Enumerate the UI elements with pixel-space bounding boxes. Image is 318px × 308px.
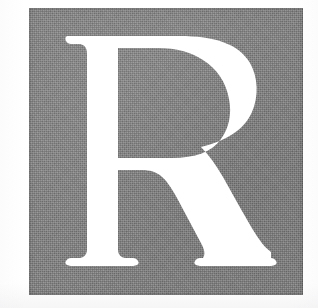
page-canvas: R Large white serif capital letter R rev… bbox=[0, 0, 318, 308]
halftone-texture-grid bbox=[29, 8, 303, 295]
gray-halftone-square bbox=[29, 8, 303, 295]
halftone-texture-mottle bbox=[29, 8, 303, 295]
halftone-texture-diagonal bbox=[29, 8, 303, 295]
